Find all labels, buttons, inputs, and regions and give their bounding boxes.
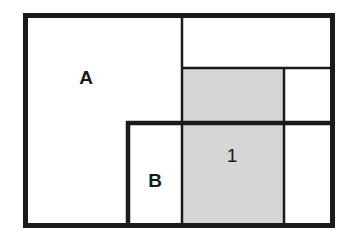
outer-frame: [26, 16, 333, 226]
region-1-label: 1: [227, 145, 238, 166]
region-b-label: B: [148, 170, 162, 191]
partition-diagram: A B 1: [0, 0, 351, 250]
region-a-label: A: [79, 67, 93, 88]
